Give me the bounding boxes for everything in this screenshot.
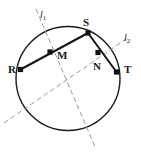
point-marker-n [95, 50, 100, 55]
point-label-m: M [57, 50, 67, 61]
point-label-t: T [124, 64, 131, 75]
point-marker-t [114, 69, 119, 74]
figure-canvas [0, 0, 141, 156]
point-marker-s [85, 30, 90, 35]
point-label-r: R [8, 64, 16, 75]
point-label-s: S [83, 17, 89, 28]
main-circle [16, 27, 120, 131]
line-label-l1: l1 [40, 10, 46, 20]
point-label-n: N [93, 61, 101, 72]
point-marker-r [18, 67, 23, 72]
point-marker-m [47, 49, 52, 54]
geometry-figure: R M S N T l1 l2 [0, 0, 141, 156]
line-label-l2-subscript: 2 [127, 37, 131, 45]
line-label-l1-subscript: 1 [43, 14, 47, 22]
chord-rs [21, 33, 89, 70]
line-label-l2: l2 [124, 33, 130, 43]
